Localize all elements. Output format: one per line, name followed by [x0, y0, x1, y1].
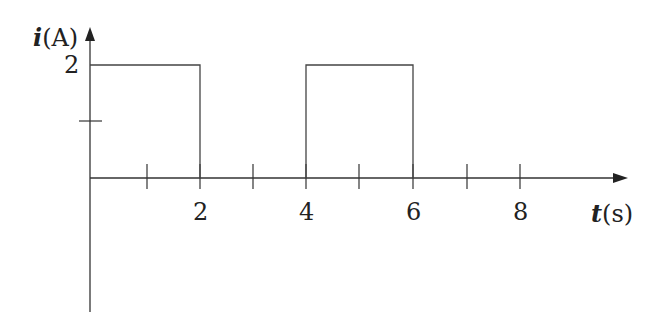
y-axis-label: i(A): [33, 23, 78, 52]
x-tick-label-2: 2: [193, 198, 208, 226]
x-tick-label-8: 8: [513, 198, 528, 226]
x-ticks: [147, 164, 520, 189]
current-waveform-chart: i(A) 2 2 4 6 8 t(s): [0, 0, 659, 315]
x-tick-label-6: 6: [406, 198, 421, 226]
x-axis-label: t(s): [591, 199, 633, 228]
y-tick-label-2: 2: [64, 51, 79, 79]
pulse-2: [306, 65, 413, 178]
x-tick-label-4: 4: [299, 198, 314, 226]
y-axis-arrow-icon: [85, 27, 95, 41]
pulse-1: [90, 65, 200, 178]
x-axis-arrow-icon: [613, 173, 628, 183]
